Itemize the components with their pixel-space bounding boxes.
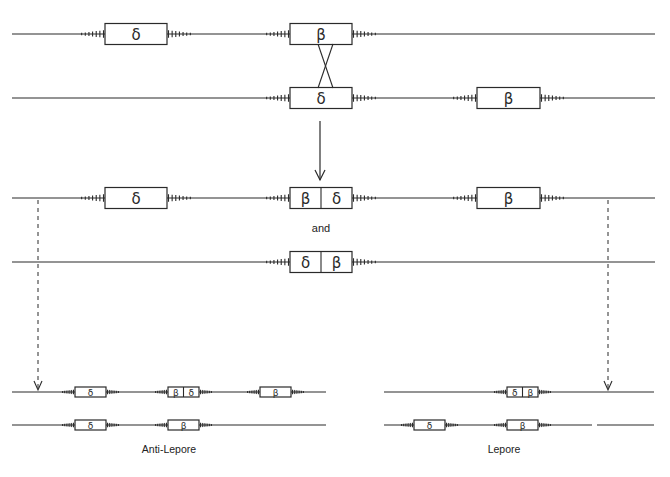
chromosome-product-1: δβδβ [12,188,655,209]
delta-gene-label: δ [427,421,433,431]
beta-gene-label: β [520,421,526,431]
crossover-diagram: δβδβδβδβδβδβδβδβδβδβ [0,0,670,477]
delta-gene-label: δ [131,26,140,44]
beta-gene-label: β [173,388,179,398]
delta-gene-label: δ [88,421,94,431]
beta-gene-label: β [181,421,187,431]
beta-gene-label: β [316,26,326,44]
delta-gene-label: δ [131,190,140,208]
beta-gene-label: β [332,254,342,272]
chromosome-top-1: δβ [12,24,655,45]
beta-gene-label: β [504,90,514,108]
chromosome-lines: δβδβδβδβδβδβδβδβδβδβ [12,24,655,431]
chromosome-anti-lepore-1: δβδβ [12,387,326,398]
delta-gene-label: δ [332,190,341,208]
beta-gene-label: β [504,190,514,208]
and-label: and [312,222,330,234]
delta-gene-label: δ [88,388,94,398]
anti-lepore-caption: Anti-Lepore [142,443,196,455]
beta-gene-label: β [301,190,311,208]
chromosome-lepore-2: δβ [384,420,654,431]
delta-gene-label: δ [301,254,310,272]
chromosome-product-2: δβ [12,252,655,273]
chromosome-anti-lepore-2: δβ [12,420,326,431]
delta-gene-label: δ [316,90,325,108]
down-arrow-icon [315,121,325,180]
chromosome-top-2: δβ [12,88,655,109]
lepore-caption: Lepore [488,443,521,455]
delta-gene-label: δ [512,388,518,398]
delta-gene-label: δ [188,388,194,398]
beta-gene-label: β [273,388,279,398]
beta-gene-label: β [527,388,533,398]
crossover-x-icon [318,44,333,88]
chromosome-lepore-1: δβ [384,387,654,398]
